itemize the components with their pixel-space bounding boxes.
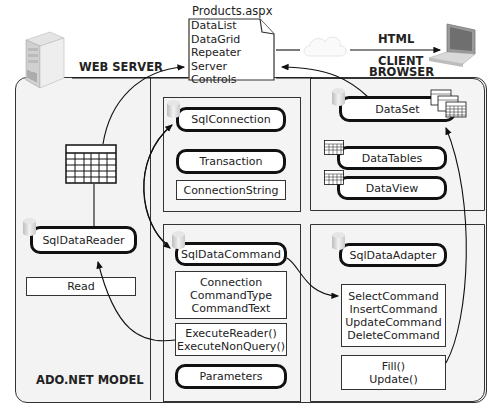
- connectionstring-label: ConnectionString: [183, 184, 278, 197]
- laptop-icon: [425, 22, 485, 70]
- command-properties: Connection CommandType CommandText: [175, 271, 287, 319]
- dataview-object: DataView: [337, 176, 447, 200]
- ado-net-model-label: ADO.NET MODEL: [36, 373, 144, 387]
- table-grid-icon: [324, 170, 344, 185]
- dataview-label: DataView: [366, 182, 418, 195]
- sqldatacommand-object: SqlDataCommand: [175, 242, 287, 266]
- table-grid-icon: [65, 144, 117, 184]
- transaction-object: Transaction: [176, 149, 286, 174]
- page-file-item: DataList: [188, 19, 276, 33]
- read-method: Read: [26, 277, 136, 296]
- adapter-command: InsertCommand: [349, 303, 437, 316]
- database-cylinder-icon: [167, 100, 180, 118]
- database-cylinder-icon: [172, 231, 185, 249]
- adapter-command: DeleteCommand: [347, 329, 440, 342]
- parameters-label: Parameters: [200, 370, 263, 383]
- command-method: ExecuteNonQuery(): [177, 340, 285, 353]
- table-grid-icon: [324, 140, 344, 155]
- page-file-document: DataList DataGrid Repeater Server Contro…: [188, 18, 276, 80]
- sqlconnection-object: SqlConnection: [176, 107, 286, 132]
- sqldataadapter-label: SqlDataAdapter: [350, 249, 437, 262]
- html-label: HTML: [378, 32, 414, 46]
- adapter-methods: Fill() Update(): [341, 355, 446, 390]
- sqldatareader-object: SqlDataReader: [30, 226, 137, 254]
- sqlconnection-label: SqlConnection: [191, 113, 270, 126]
- sqldatareader-label: SqlDataReader: [42, 234, 124, 247]
- parameters-object: Parameters: [175, 364, 287, 389]
- page-file-item: Repeater: [188, 46, 276, 60]
- adapter-method: Update(): [369, 373, 417, 386]
- database-cylinder-icon: [23, 218, 36, 236]
- page-file-item: DataGrid: [188, 33, 276, 47]
- command-property: Connection: [200, 276, 262, 289]
- page-file-title: Products.aspx: [192, 4, 272, 18]
- server-tower-icon: [20, 30, 70, 90]
- sqldataadapter-object: SqlDataAdapter: [339, 243, 447, 267]
- internet-cloud-icon: [300, 30, 350, 64]
- connectionstring-property: ConnectionString: [176, 180, 286, 200]
- database-cylinder-icon: [332, 232, 345, 250]
- command-methods: ExecuteReader() ExecuteNonQuery(): [175, 323, 287, 356]
- sqldatacommand-label: SqlDataCommand: [181, 248, 281, 261]
- datatables-label: DataTables: [362, 152, 422, 165]
- read-label: Read: [67, 280, 95, 293]
- page-file-item: Server Controls: [188, 60, 276, 87]
- command-method: ExecuteReader(): [185, 327, 277, 340]
- datatables-object: DataTables: [337, 146, 447, 170]
- dataset-label: DataSet: [375, 103, 419, 116]
- command-property: CommandText: [192, 302, 271, 315]
- adapter-command: SelectCommand: [348, 290, 438, 303]
- database-cylinder-icon: [332, 88, 345, 106]
- web-server-label: WEB SERVER: [79, 60, 163, 74]
- command-property: CommandType: [190, 289, 272, 302]
- table-stack-icon: [430, 89, 470, 121]
- adapter-method: Fill(): [382, 360, 405, 373]
- adapter-commands: SelectCommand InsertCommand UpdateComman…: [341, 284, 446, 347]
- adapter-command: UpdateCommand: [345, 316, 441, 329]
- transaction-label: Transaction: [200, 155, 263, 168]
